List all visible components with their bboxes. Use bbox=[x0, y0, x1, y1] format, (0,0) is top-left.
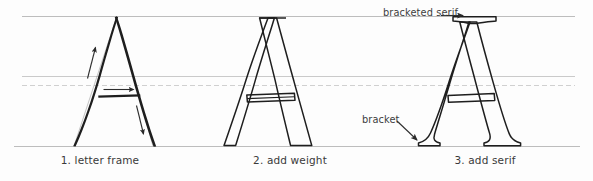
panel-1-letter-frame bbox=[73, 17, 156, 147]
annotation-arrows bbox=[397, 16, 463, 141]
panel-2-caption: 2. add weight bbox=[190, 154, 390, 166]
panel-1-right-diagonal bbox=[115, 17, 157, 147]
panel-2-right-diagonal-thick bbox=[260, 18, 312, 146]
bracketed-serif-label: bracketed serif bbox=[383, 7, 458, 18]
bracket-label: bracket bbox=[362, 114, 400, 125]
bracket-arrow bbox=[397, 121, 417, 140]
panel-3-right-diagonal-serifed bbox=[460, 22, 521, 146]
panel-1-caption: 1. letter frame bbox=[0, 154, 200, 166]
panel-3-left-diagonal-serifed bbox=[419, 22, 471, 146]
panel-1-crossbar bbox=[98, 94, 140, 98]
stroke-direction-arrow-up bbox=[88, 48, 96, 79]
letter-construction-figure: bracketed serif bracket 1. letter frame … bbox=[0, 0, 593, 181]
panel-2-add-weight bbox=[224, 18, 312, 146]
panel-3-add-serif bbox=[419, 17, 521, 146]
panel-2-crossbar-inner-line bbox=[247, 97, 295, 99]
panel-3-caption: 3. add serif bbox=[385, 154, 585, 166]
panel-3-crossbar bbox=[448, 94, 495, 103]
panel-2-left-diagonal-thin bbox=[224, 18, 274, 146]
